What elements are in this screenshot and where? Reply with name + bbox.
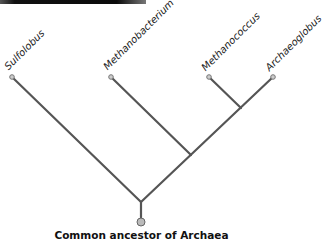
branch-methanobacterium	[111, 77, 191, 155]
tip-node-methanococcus	[207, 75, 212, 80]
root-label: Common ancestor of Archaea	[0, 229, 283, 241]
phylogenetic-tree	[0, 0, 328, 242]
tip-node-archaeoglobus	[271, 75, 276, 80]
branch-archaeoglobus	[141, 77, 273, 202]
branch-sulfolobus	[12, 77, 141, 202]
branch-methanococcus	[209, 77, 241, 108]
tip-node-sulfolobus	[10, 75, 15, 80]
root-node	[137, 218, 145, 226]
tip-node-methanobacterium	[109, 75, 114, 80]
